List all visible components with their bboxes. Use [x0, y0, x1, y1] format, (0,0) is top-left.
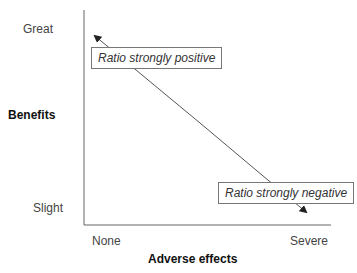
y-tick-great: Great: [23, 22, 53, 36]
x-tick-severe: Severe: [290, 234, 328, 248]
y-axis-title: Benefits: [8, 108, 55, 122]
x-axis-title: Adverse effects: [148, 252, 237, 266]
diagram-canvas: [0, 0, 357, 273]
x-tick-none: None: [92, 234, 121, 248]
y-tick-slight: Slight: [33, 201, 63, 215]
annotation-ratio-negative: Ratio strongly negative: [218, 182, 354, 204]
annotation-ratio-positive: Ratio strongly positive: [91, 47, 222, 69]
